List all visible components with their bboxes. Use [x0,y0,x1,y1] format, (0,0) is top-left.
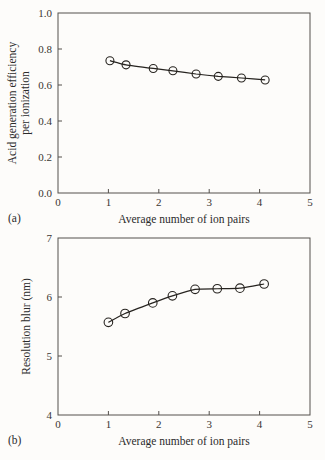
x-tick-label: 3 [206,418,212,430]
x-tick-label: 5 [307,418,313,430]
x-tick-label: 3 [206,196,212,208]
y-axis-title-line: Acid generation efficiency [6,42,19,165]
y-tick-label: 0.2 [38,151,52,163]
x-tick-label: 5 [307,196,313,208]
x-axis-title: Average number of ion pairs [118,213,250,226]
panel-b: 0123454567Average number of ion pairsRes… [0,230,325,460]
plot-a: 0123450.00.20.40.60.81.0Average number o… [0,0,325,230]
y-tick-label: 7 [47,232,53,244]
data-point-marker [106,57,114,65]
x-tick-label: 4 [257,418,263,430]
y-axis-title: Resolution blur (nm) [20,278,33,375]
panel-label: (b) [8,434,22,447]
data-curve [108,284,264,322]
y-tick-label: 0.0 [38,187,52,199]
x-tick-label: 2 [156,418,162,430]
y-axis-title-line: Resolution blur (nm) [20,278,33,375]
plot-b: 0123454567Average number of ion pairsRes… [0,230,325,460]
x-tick-label: 0 [55,418,61,430]
y-axis-title: Acid generation efficiencyper ionization [6,42,32,165]
x-tick-label: 2 [156,196,162,208]
x-tick-label: 4 [257,196,263,208]
plot-frame [58,13,310,193]
data-point-marker [104,318,113,327]
y-axis-title-line: per ionization [19,71,32,135]
x-axis-title: Average number of ion pairs [118,435,250,448]
y-tick-label: 0.8 [38,43,52,55]
y-tick-label: 0.6 [38,79,52,91]
y-tick-label: 4 [47,409,53,421]
x-tick-label: 1 [106,196,112,208]
data-curve [110,61,265,80]
y-tick-label: 5 [47,350,53,362]
y-tick-label: 6 [47,291,53,303]
x-tick-label: 0 [55,196,61,208]
figure-container: 0123450.00.20.40.60.81.0Average number o… [0,0,325,460]
y-tick-label: 1.0 [38,7,52,19]
panel-a: 0123450.00.20.40.60.81.0Average number o… [0,0,325,230]
x-tick-label: 1 [106,418,112,430]
panel-label: (a) [8,212,21,225]
y-tick-label: 0.4 [38,115,52,127]
plot-frame [58,238,310,415]
